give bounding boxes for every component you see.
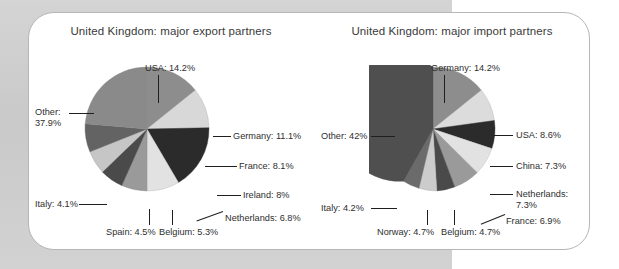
export-label-spain: Spain: 4.5%: [106, 227, 156, 239]
export-leader-germany: [213, 136, 231, 137]
export-leader-spain: [149, 209, 150, 225]
export-label-other-line1: Other:: [35, 107, 61, 119]
import-leader-italy: [371, 208, 397, 209]
import-label-italy: Italy: 4.2%: [321, 203, 364, 215]
export-label-italy: Italy: 4.1%: [35, 199, 78, 211]
export-label-ireland: Ireland: 8%: [243, 190, 289, 202]
import-pie-svg: [369, 65, 497, 193]
import-leader-france: [481, 214, 505, 225]
export-chart-title: United Kingdom: major export partners: [29, 25, 313, 37]
import-label-china: China: 7.3%: [516, 161, 566, 173]
export-label-usa: USA: 14.2%: [145, 63, 195, 75]
import-label-belgium: Belgium: 4.7%: [441, 227, 500, 239]
figure-root: United Kingdom: major export partners: [0, 0, 619, 269]
export-slice-other: [85, 67, 147, 129]
export-label-netherlands: Netherlands: 6.8%: [225, 213, 301, 225]
import-label-norway: Norway: 4.7%: [377, 227, 434, 239]
import-chart-panel: United Kingdom: major import partners: [313, 13, 591, 249]
export-pie-chart: [83, 65, 211, 193]
import-label-germany: Germany: 14.2%: [431, 63, 500, 75]
export-label-other-line2: 37.9%: [35, 118, 61, 130]
import-label-other: Other: 42%: [321, 131, 367, 143]
export-label-belgium: Belgium: 5.3%: [159, 227, 218, 239]
import-leader-netherlands: [490, 194, 513, 195]
import-leader-usa: [493, 135, 513, 136]
import-label-usa: USA: 8.6%: [516, 130, 561, 142]
export-leader-other: [69, 113, 94, 114]
import-leader-germany: [444, 75, 445, 103]
import-leader-belgium: [454, 210, 455, 225]
chart-card: United Kingdom: major export partners: [28, 12, 590, 250]
import-leader-other: [371, 136, 395, 137]
import-label-france: France: 6.9%: [506, 216, 561, 228]
export-label-germany: Germany: 11.1%: [233, 131, 301, 143]
export-leader-netherlands: [197, 211, 224, 222]
export-label-france: France: 8.1%: [239, 161, 294, 173]
export-chart-panel: United Kingdom: major export partners: [29, 13, 313, 249]
export-pie-svg: [83, 65, 211, 193]
import-chart-title: United Kingdom: major import partners: [313, 25, 591, 37]
import-label-netherlands-line2: 7.3%: [516, 200, 537, 212]
export-leader-usa: [158, 75, 159, 103]
export-leader-ireland: [217, 195, 241, 196]
import-leader-china: [490, 166, 513, 167]
export-leader-france: [205, 166, 237, 167]
import-pie-chart: [369, 65, 497, 193]
import-leader-norway: [427, 210, 428, 225]
export-leader-italy: [79, 204, 107, 205]
export-leader-belgium: [172, 210, 173, 225]
import-label-netherlands-line1: Netherlands:: [516, 189, 568, 201]
